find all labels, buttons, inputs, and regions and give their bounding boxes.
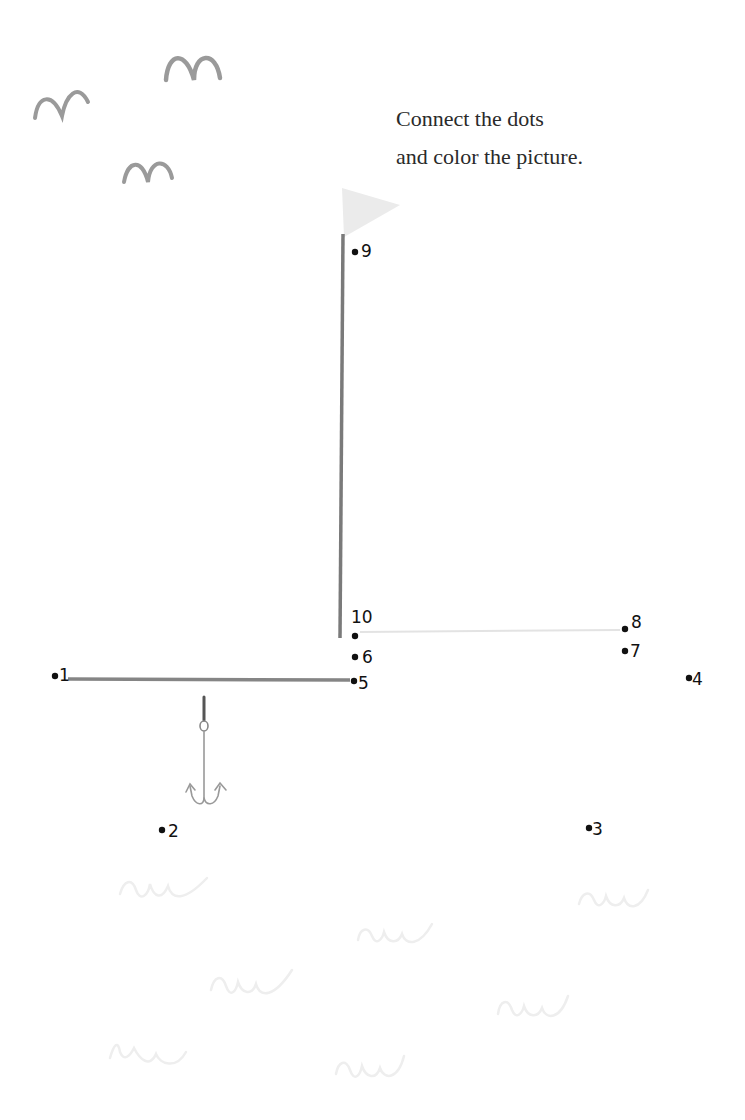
flag-icon xyxy=(342,188,400,237)
wave-icon xyxy=(211,970,292,993)
dot-label: 1 xyxy=(59,665,70,685)
boom-line xyxy=(68,679,350,680)
dot-label: 2 xyxy=(168,821,179,841)
dot-label: 9 xyxy=(361,241,372,261)
dot-9: 9 xyxy=(352,241,372,261)
dot-5: 5 xyxy=(351,673,369,693)
dot-3: 3 xyxy=(586,819,603,839)
bird-icon xyxy=(124,163,172,182)
dot-to-dot-drawing: 1 2 3 4 5 6 7 8 xyxy=(0,0,745,1120)
dot-label: 3 xyxy=(592,819,603,839)
dot-8: 8 xyxy=(622,612,642,632)
dot-10: 10 xyxy=(351,607,373,639)
dot-label: 7 xyxy=(630,641,641,661)
dot-2: 2 xyxy=(159,821,179,841)
dot-4: 4 xyxy=(686,669,703,689)
wave-icon xyxy=(358,924,432,942)
wave-icon xyxy=(110,1045,186,1064)
wave-icon xyxy=(579,890,648,906)
guide-line xyxy=(360,630,620,632)
mast-line xyxy=(340,234,343,638)
bird-icon xyxy=(35,92,88,118)
dot-7: 7 xyxy=(622,641,641,661)
wave-icon xyxy=(120,878,207,897)
dot-label: 5 xyxy=(358,673,369,693)
dot-1: 1 xyxy=(52,665,70,685)
dot-label: 6 xyxy=(362,647,373,667)
bird-icon xyxy=(166,58,220,80)
wave-icon xyxy=(336,1056,404,1077)
dot-label: 4 xyxy=(692,669,703,689)
dot-label: 10 xyxy=(351,607,373,627)
anchor-hook-icon xyxy=(186,697,226,804)
wave-icon xyxy=(498,996,568,1016)
coloring-page: Connect the dots and color the picture. xyxy=(0,0,745,1120)
dot-6: 6 xyxy=(352,647,373,667)
dot-label: 8 xyxy=(631,612,642,632)
